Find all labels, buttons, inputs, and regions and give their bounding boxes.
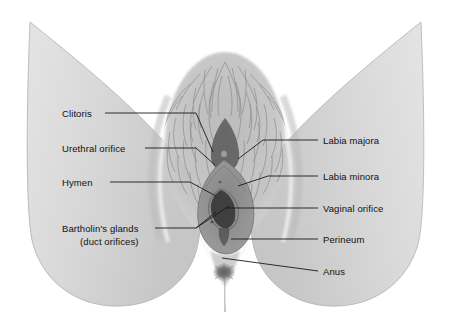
label-hymen: Hymen <box>62 177 93 188</box>
label-bartholins-glands: Bartholin's glands <box>62 223 139 234</box>
label-urethral-orifice: Urethral orifice <box>62 143 125 154</box>
label-perineum: Perineum <box>323 234 364 245</box>
label-vaginal-orifice: Vaginal orifice <box>323 203 383 214</box>
diagram-canvas: Clitoris Urethral orifice Hymen Bartholi… <box>0 0 451 330</box>
label-labia-majora: Labia majora <box>323 135 380 146</box>
label-clitoris: Clitoris <box>62 108 92 119</box>
urethral-orifice-mark <box>219 181 222 184</box>
label-labia-minora: Labia minora <box>323 171 380 182</box>
label-bartholins-glands-sub: (duct orifices) <box>80 236 139 247</box>
label-anus: Anus <box>323 266 345 277</box>
bartholin-duct-left <box>211 221 214 223</box>
anatomical-figure: Clitoris Urethral orifice Hymen Bartholi… <box>0 0 451 330</box>
bartholin-duct-right <box>233 219 236 221</box>
clitoris-glans <box>221 150 227 157</box>
